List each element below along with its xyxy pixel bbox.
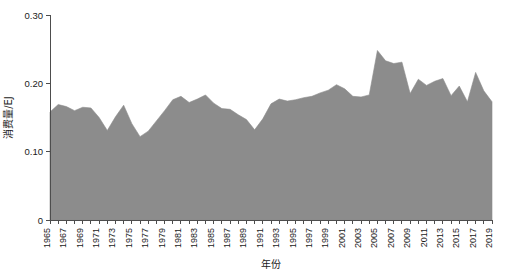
y-tick-label-1: 0.10	[25, 146, 44, 157]
y-tick-label-0: 0	[38, 215, 43, 226]
x-tick-label-2009: 2009	[402, 228, 412, 248]
x-tick-label-2013: 2013	[435, 228, 445, 248]
x-tick-label-1965: 1965	[42, 228, 52, 248]
x-tick-label-1999: 1999	[320, 228, 330, 248]
x-tick-label-2011: 2011	[419, 228, 429, 247]
x-tick-label-2005: 2005	[369, 228, 379, 248]
x-tick-label-1983: 1983	[189, 228, 199, 248]
x-tick-label-1977: 1977	[140, 228, 150, 248]
area-chart: 00.100.200.30 19651967196919711973197519…	[0, 0, 508, 274]
consumption-area-series	[50, 51, 492, 220]
chart-canvas: 00.100.200.30 19651967196919711973197519…	[0, 0, 508, 274]
x-tick-label-2003: 2003	[353, 228, 363, 248]
x-tick-label-1987: 1987	[222, 228, 232, 248]
y-axis-tick-labels: 00.100.200.30	[25, 10, 44, 226]
x-tick-label-1973: 1973	[107, 228, 117, 248]
x-tick-label-1985: 1985	[206, 228, 216, 248]
x-tick-label-1979: 1979	[157, 228, 167, 248]
x-tick-label-1981: 1981	[173, 228, 183, 248]
x-tick-label-1993: 1993	[271, 228, 281, 248]
x-tick-label-1967: 1967	[58, 228, 68, 248]
x-tick-label-2017: 2017	[468, 228, 478, 248]
x-tick-label-1997: 1997	[304, 228, 314, 248]
x-tick-label-1971: 1971	[91, 228, 101, 248]
x-tick-label-2001: 2001	[337, 228, 347, 248]
x-tick-label-1969: 1969	[75, 228, 85, 248]
x-tick-label-2019: 2019	[484, 228, 494, 248]
x-tick-label-2007: 2007	[386, 228, 396, 248]
y-axis-title: 消费量/EJ	[2, 96, 14, 139]
x-tick-label-1989: 1989	[238, 228, 248, 248]
x-tick-label-1995: 1995	[288, 228, 298, 248]
y-tick-label-2: 0.20	[25, 78, 44, 89]
x-tick-label-2015: 2015	[451, 228, 461, 248]
x-axis-tick-labels: 1965196719691971197319751977197919811983…	[42, 228, 494, 248]
x-tick-label-1975: 1975	[124, 228, 134, 248]
y-tick-label-3: 0.30	[25, 10, 44, 21]
x-axis-title: 年份	[261, 258, 281, 270]
area-path	[50, 51, 492, 220]
x-tick-label-1991: 1991	[255, 228, 265, 248]
